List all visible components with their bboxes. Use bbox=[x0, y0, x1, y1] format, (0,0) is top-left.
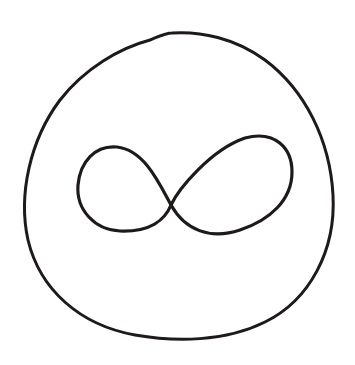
line-drawing bbox=[0, 0, 355, 365]
outer-circle-outline bbox=[25, 33, 334, 340]
drawing-canvas bbox=[0, 0, 355, 365]
infinity-symbol bbox=[78, 136, 292, 234]
